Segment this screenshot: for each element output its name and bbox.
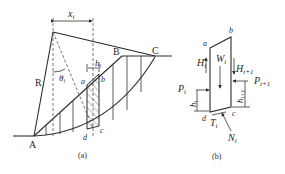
hatched-slice-i: [87, 74, 99, 129]
point-B-label: B: [113, 46, 120, 57]
H-i1-label: Hi+1: [235, 63, 253, 76]
caption-b: (b): [212, 152, 222, 161]
slope-surface-line: [34, 56, 122, 136]
fb-point-c-label: c: [232, 109, 236, 118]
N-i-arrow: [222, 113, 231, 131]
slope-stability-diagram: xi bi θi R A B C a b c d (a) Wi Hi Hi+1: [0, 0, 285, 174]
fb-point-d-label: d: [202, 114, 207, 123]
x-dimension-label: xi: [67, 8, 74, 21]
P-i-label: Pi: [177, 83, 186, 96]
N-i-label: Ni: [227, 132, 237, 145]
point-C-label: C: [152, 45, 159, 56]
free-body-slice: [210, 37, 231, 112]
P-i1-label: Pi+1: [253, 75, 270, 88]
radius-label: R: [35, 77, 42, 88]
figure-a: xi bi θi R A B C a b c d (a): [13, 8, 172, 160]
theta-arc: [53, 69, 65, 72]
fb-point-b-label: b: [229, 26, 233, 35]
theta-label: θi: [59, 73, 65, 84]
h-i-label: hi: [188, 101, 199, 108]
point-d-label: d: [83, 133, 88, 142]
point-c-label: c: [100, 126, 104, 135]
H-i-label: Hi: [196, 57, 206, 70]
point-A-label: A: [29, 139, 37, 150]
point-b-label: b: [101, 75, 105, 84]
radius-line-C: [53, 32, 155, 56]
weight-label: Wi: [216, 53, 226, 66]
figure-b: Wi Hi Hi+1 Pi Pi+1 hi hi+1 Ti Ni a b c d…: [177, 26, 270, 161]
caption-a: (a): [78, 151, 87, 160]
T-i-arrow-line: [212, 112, 226, 115]
b-dimension-label: bi: [95, 58, 102, 69]
h-i1-label: hi+1: [235, 90, 246, 103]
fb-point-a-label: a: [203, 39, 207, 48]
T-i-label: Ti: [210, 117, 218, 130]
point-a-label: a: [81, 77, 85, 86]
